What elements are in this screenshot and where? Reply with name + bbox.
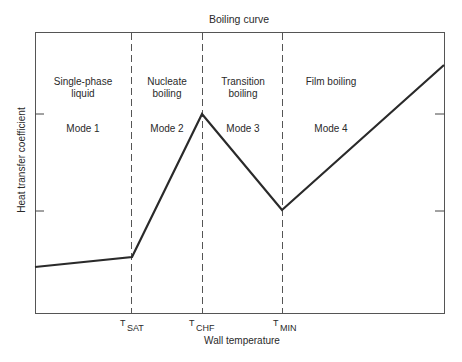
region-label-3: Transition boiling Mode 3 [221,76,265,134]
region-label-1: Single-phase liquid Mode 1 [54,76,113,134]
svg-text:T: T [189,318,195,328]
svg-text:T: T [273,318,279,328]
x-axis-label: Wall temperature [204,335,280,346]
svg-text:liquid: liquid [71,88,94,99]
svg-text:Mode 1: Mode 1 [66,123,100,134]
svg-text:Single-phase: Single-phase [54,76,113,87]
svg-text:Transition: Transition [221,76,265,87]
y-axis-label: Heat transfer coefficient [16,107,27,213]
boiling-curve-diagram: Boiling curve Single-phase liquid Mode 1… [0,0,462,362]
svg-text:Mode 3: Mode 3 [226,123,260,134]
svg-text:MIN: MIN [280,323,297,333]
svg-text:CHF: CHF [196,323,215,333]
x-marker-tsat: T SAT [120,318,144,333]
region-label-4: Film boiling Mode 4 [306,76,357,134]
svg-text:T: T [120,318,126,328]
chart-title: Boiling curve [209,13,269,25]
svg-text:SAT: SAT [127,323,144,333]
svg-text:boiling: boiling [153,88,182,99]
svg-text:Film boiling: Film boiling [306,76,357,87]
region-label-2: Nucleate boiling Mode 2 [147,76,187,134]
plot-frame [36,33,445,314]
svg-text:Mode 4: Mode 4 [314,123,348,134]
svg-text:Mode 2: Mode 2 [150,123,184,134]
x-marker-tmin: T MIN [273,318,297,333]
x-marker-tchf: T CHF [189,318,215,333]
svg-text:Nucleate: Nucleate [147,76,187,87]
svg-text:boiling: boiling [229,88,258,99]
